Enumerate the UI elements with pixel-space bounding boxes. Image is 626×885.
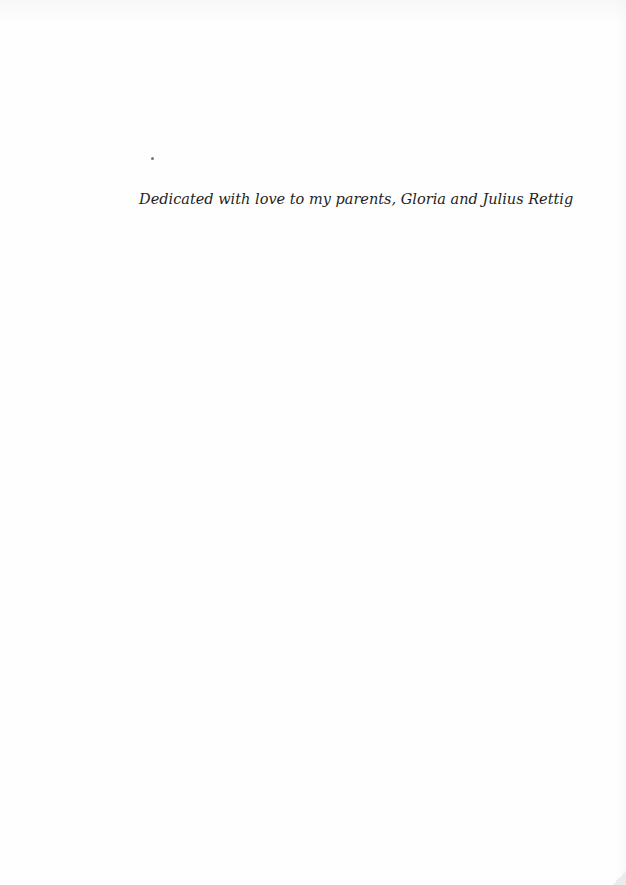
document-page: Dedicated with love to my parents, Glori…: [0, 0, 626, 885]
dedication-text: Dedicated with love to my parents, Glori…: [139, 189, 499, 209]
page-corner: [612, 871, 626, 885]
scan-speck: [151, 157, 154, 160]
